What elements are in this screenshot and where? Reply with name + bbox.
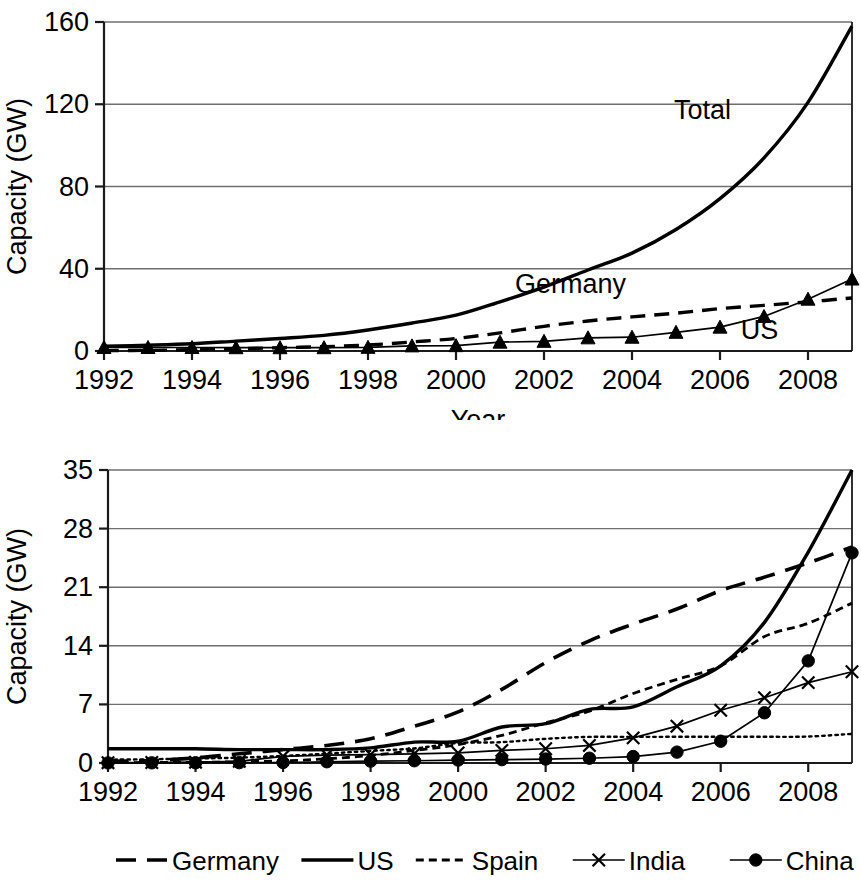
- x-tick-label: 2008: [778, 777, 838, 807]
- y-tick-label: 80: [59, 172, 89, 202]
- x-tick-label: 1992: [78, 777, 138, 807]
- y-tick-label: 0: [74, 336, 89, 366]
- x-tick-label: 2002: [514, 365, 574, 395]
- legend-label: Germany: [172, 846, 279, 876]
- y-axis-title: Capacity (GW): [2, 528, 32, 705]
- y-tick-label: 120: [44, 89, 89, 119]
- series-label-us: US: [741, 315, 779, 345]
- x-axis: 199219941996199820002002200420062008: [78, 763, 852, 807]
- chart-legend: GermanyUSSpainIndiaChinaDenmark: [0, 826, 861, 886]
- legend-item-spain: Spain: [416, 846, 539, 876]
- x-tick-label: 2006: [691, 777, 751, 807]
- legend-label: Spain: [472, 846, 539, 876]
- y-axis: 0714212835: [63, 455, 108, 778]
- x-tick-label: 2000: [428, 777, 488, 807]
- bottom-chart-panel: 0714212835199219941996199820002002200420…: [0, 430, 861, 820]
- x-tick-label: 2004: [602, 365, 662, 395]
- y-axis-title: Capacity (GW): [2, 98, 32, 275]
- y-tick-label: 0: [78, 748, 93, 778]
- y-tick-label: 35: [63, 455, 93, 485]
- x-axis-title: Year: [453, 817, 508, 820]
- legend-item-us: US: [301, 846, 393, 876]
- y-tick-label: 21: [63, 572, 93, 602]
- series-india: [102, 666, 858, 769]
- x-tick-label: 1994: [165, 777, 225, 807]
- series-us: [108, 470, 852, 750]
- y-tick-label: 40: [59, 254, 89, 284]
- series-label-total: Total: [674, 95, 731, 125]
- x-tick-label: 1996: [253, 777, 313, 807]
- top-chart-svg: 0408012016019921994199619982000200220042…: [0, 0, 861, 420]
- x-tick-label: 1998: [341, 777, 401, 807]
- wind-capacity-figure: 0408012016019921994199619982000200220042…: [0, 0, 861, 886]
- x-tick-label: 1994: [162, 365, 222, 395]
- y-tick-label: 28: [63, 514, 93, 544]
- y-tick-label: 7: [78, 689, 93, 719]
- legend-label: India: [629, 846, 686, 876]
- x-tick-label: 2008: [778, 365, 838, 395]
- x-tick-label: 1998: [338, 365, 398, 395]
- x-tick-label: 2004: [603, 777, 663, 807]
- legend-item-china: China: [730, 846, 854, 876]
- y-tick-label: 160: [44, 7, 89, 37]
- legend-item-india: India: [573, 846, 686, 876]
- series-spain: [108, 603, 852, 762]
- y-tick-label: 14: [63, 631, 93, 661]
- legend-label: US: [357, 846, 393, 876]
- series-label-germany: Germany: [515, 269, 627, 299]
- gridlines: [104, 22, 852, 269]
- legend-svg: GermanyUSSpainIndiaChinaDenmark: [0, 826, 861, 886]
- series-group: [97, 26, 859, 354]
- markers-india: [102, 666, 858, 769]
- x-tick-label: 2002: [516, 777, 576, 807]
- x-tick-label: 1992: [74, 365, 134, 395]
- legend-item-germany: Germany: [116, 846, 279, 876]
- x-axis: 199219941996199820002002200420062008: [74, 351, 852, 395]
- y-axis: 04080120160: [44, 7, 104, 366]
- x-axis-title: Year: [451, 405, 506, 420]
- series-group: [102, 470, 858, 769]
- bottom-chart-svg: 0714212835199219941996199820002002200420…: [0, 430, 861, 820]
- legend-label: China: [786, 846, 854, 876]
- x-tick-label: 2006: [690, 365, 750, 395]
- gridlines: [108, 470, 852, 704]
- x-tick-label: 2000: [426, 365, 486, 395]
- top-chart-panel: 0408012016019921994199619982000200220042…: [0, 0, 861, 420]
- x-tick-label: 1996: [250, 365, 310, 395]
